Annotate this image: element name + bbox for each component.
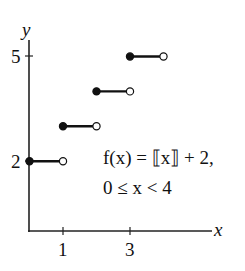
y-axis-label: y: [22, 20, 30, 39]
formula-line-1: f(x) = ⟦x⟧ + 2,: [103, 147, 214, 168]
x-tick-label-1: 1: [58, 240, 68, 259]
open-endpoint: [59, 158, 66, 165]
open-endpoint: [160, 53, 167, 60]
x-tick-label-3: 3: [125, 240, 135, 259]
y-tick-label-5: 5: [11, 47, 21, 66]
closed-endpoint: [26, 158, 33, 165]
formula-line-2: 0 ≤ x < 4: [103, 177, 172, 198]
step-function-plot: [0, 0, 245, 271]
function-formula: f(x) = ⟦x⟧ + 2,: [103, 148, 214, 167]
closed-endpoint: [59, 123, 66, 130]
y-tick-label-2: 2: [11, 152, 21, 171]
closed-endpoint: [93, 88, 100, 95]
open-endpoint: [93, 123, 100, 130]
function-domain: 0 ≤ x < 4: [103, 178, 172, 197]
open-endpoint: [126, 88, 133, 95]
x-axis-label: x: [214, 220, 222, 239]
closed-endpoint: [126, 53, 133, 60]
